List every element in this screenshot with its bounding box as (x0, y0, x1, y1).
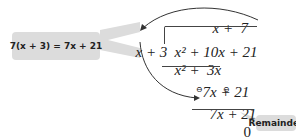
step1-rule (162, 66, 220, 67)
product-callout: 7(x + 3) = 7x + 21 (12, 32, 100, 60)
vinculum (165, 26, 257, 27)
divisor: x + 3 (128, 30, 167, 60)
divisor-text: x + 3 (136, 44, 168, 60)
product-callout-text: 7(x + 3) = 7x + 21 (10, 41, 103, 51)
remainder-callout: Remainder (256, 115, 296, 131)
division-bracket (164, 26, 166, 44)
remainder-callout-text: Remainder (249, 118, 296, 128)
